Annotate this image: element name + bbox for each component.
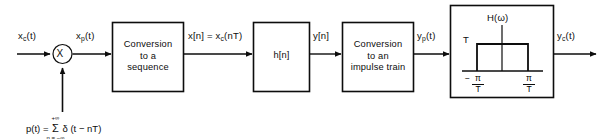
plot-amplitude-label-T: T xyxy=(463,34,469,45)
block-line-1: Conversion xyxy=(343,39,414,51)
plot-tick-right-numerator: π xyxy=(522,74,536,83)
impulse-train-equation: p(t) = +∞ Σ n = −∞ δ (t − nT) xyxy=(26,122,101,134)
block-label-conversion-to-sequence: Conversion to a sequence xyxy=(113,39,184,74)
diagram-vector-layer xyxy=(0,0,607,139)
plot-curve-label-h-omega: H(ω) xyxy=(487,12,508,23)
plot-tick-right-denominator: T xyxy=(522,85,536,94)
plot-tick-left-denominator: T xyxy=(471,85,485,94)
multiplier-symbol: X xyxy=(57,48,64,59)
equation-lhs: p(t) = xyxy=(26,123,48,134)
summation-operator: +∞ Σ n = −∞ xyxy=(52,122,59,134)
summation-upper-limit: +∞ xyxy=(52,115,60,121)
block-line-3: impulse train xyxy=(343,62,414,74)
plot-tick-right-pi-over-T: π T xyxy=(522,74,536,94)
signal-label-xp: xp(t) xyxy=(76,30,95,41)
signal-label-xc: xc(t) xyxy=(18,30,36,41)
block-label-conversion-to-impulse-train: Conversion to an impulse train xyxy=(343,39,414,74)
plot-tick-left-sign: − xyxy=(465,74,470,83)
block-line-3: sequence xyxy=(113,62,184,74)
block-label-discrete-filter: h[n] xyxy=(254,50,310,62)
block-diagram-figure: xc(t) xp(t) X Conversion to a sequence x… xyxy=(0,0,607,139)
block-line-2: to an xyxy=(343,51,414,63)
signal-label-yc: yc(t) xyxy=(557,30,575,41)
signal-label-yn: y[n] xyxy=(313,30,329,41)
plot-tick-left-numerator: π xyxy=(471,74,485,83)
summation-lower-limit: n = −∞ xyxy=(47,135,65,139)
block-line-1: Conversion xyxy=(113,39,184,51)
plot-tick-left-negative-pi-over-T: − π T xyxy=(471,74,485,94)
block-line-2: to a xyxy=(113,51,184,63)
signal-label-xn: x[n] = xc(nT) xyxy=(188,30,242,41)
signal-label-yp: yp(t) xyxy=(417,30,436,41)
summation-sigma-glyph: Σ xyxy=(52,122,59,134)
equation-rhs: δ (t − nT) xyxy=(63,123,102,134)
